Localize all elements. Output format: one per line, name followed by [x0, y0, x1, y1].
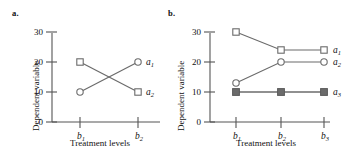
panel-b-marker-a1-b3 — [321, 47, 327, 53]
panel-a-y-tick-0: 0 — [39, 117, 44, 127]
panel-b-marker-a2-b2 — [278, 59, 284, 65]
panel-b-series-label-a2: a2 — [333, 57, 342, 68]
panel-a-y-tick-30: 30 — [34, 27, 44, 37]
panel-b-series-label-a1: a1 — [333, 45, 341, 56]
panel-b-series-label-a3: a3 — [333, 87, 342, 98]
panel-b-series-a1 — [233, 29, 327, 53]
panel-b-x-axis-label: Treatment levels — [196, 138, 336, 148]
panel-a-marker-a2-b2 — [135, 89, 141, 95]
panel-b-marker-a3-b2 — [278, 89, 285, 96]
panel-b-marker-a3-b3 — [321, 89, 328, 96]
panel-b-label: b. — [168, 8, 175, 18]
panel-b-marker-a1-b2 — [278, 47, 284, 53]
panel-b-marker-a2-b1 — [233, 80, 239, 86]
panel-a-marker-a2-b1 — [77, 59, 83, 65]
panel-a-marker-a1-b2 — [135, 59, 141, 65]
panel-a-x-axis-label: Treatment levels — [40, 138, 160, 148]
panel-b-marker-a1-b1 — [233, 29, 239, 35]
panel-a-series-label-a1: a1 — [146, 57, 154, 68]
panel-a-y-tick-20: 20 — [34, 57, 44, 67]
panel-a-y-tick-10: 10 — [34, 87, 44, 97]
panel-b-marker-a2-b3 — [321, 59, 327, 65]
panel-a-series-label-a2: a2 — [146, 87, 155, 98]
panel-b-series-a3 — [233, 89, 328, 96]
panel-b-y-tick-0: 0 — [197, 117, 202, 127]
panel-b-y-tick-10: 10 — [192, 87, 202, 97]
panel-b-marker-a3-b1 — [233, 89, 240, 96]
figure-panel-b: b. Dependent variable 0 10 20 30 b1 b2 b… — [178, 0, 356, 163]
panel-b-y-tick-30: 30 — [192, 27, 202, 37]
panel-b-series-a2 — [233, 59, 327, 86]
panel-b-y-tick-20: 20 — [192, 57, 202, 67]
panel-a-series-a1 — [77, 59, 141, 95]
figure-panel-a: a. Dependent variable 0 10 20 30 b1 b2 — [0, 0, 178, 163]
panel-a-marker-a1-b1 — [77, 89, 83, 95]
